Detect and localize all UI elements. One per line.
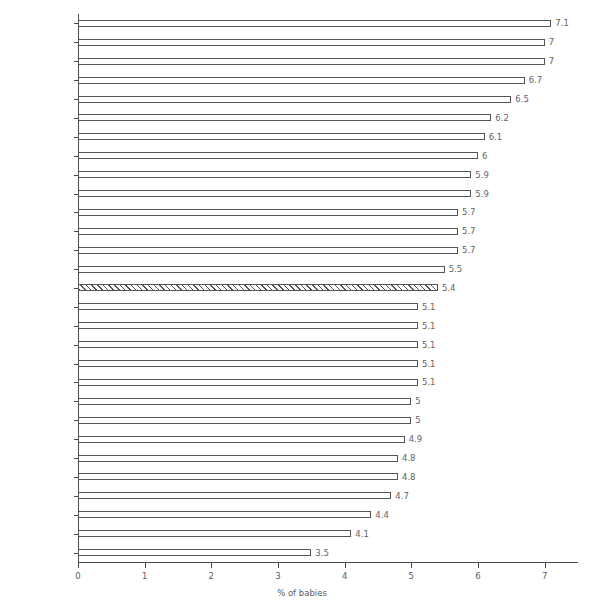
bar-value-label: 3.5 (311, 546, 329, 560)
x-axis-tick-label: 7 (542, 570, 547, 582)
x-axis-tick-label: 3 (275, 570, 280, 582)
bar (78, 530, 351, 537)
bar (78, 417, 411, 424)
bar-value-label: 5.9 (471, 168, 489, 182)
bar (78, 266, 445, 273)
bar-value-label: 4.8 (398, 470, 416, 484)
x-axis-line (78, 562, 578, 563)
bar (78, 322, 418, 329)
x-axis-tick-label: 0 (75, 570, 80, 582)
x-axis-tick-label: 4 (342, 570, 347, 582)
bar-row: Meath5.7 (78, 222, 578, 241)
bar-value-label: 6.7 (525, 73, 543, 87)
bar-row: Westmeath5.1 (78, 373, 578, 392)
bar-row: Kildare4.4 (78, 505, 578, 524)
bar (78, 511, 371, 518)
x-axis-tick (545, 563, 546, 568)
bar (78, 341, 418, 348)
bar (78, 39, 545, 46)
bar (78, 247, 458, 254)
bar (78, 96, 511, 103)
bar (78, 455, 398, 462)
x-axis-tick (145, 563, 146, 568)
bar-value-label: 7 (545, 54, 554, 68)
bar-value-label: 4.7 (391, 489, 409, 503)
bar (78, 20, 551, 27)
bar (78, 360, 418, 367)
bar-row: Offaly6.5 (78, 90, 578, 109)
bar-value-label: 5.1 (418, 300, 436, 314)
bar-row: Donegal5.1 (78, 316, 578, 335)
bar-value-label: 5.7 (458, 205, 476, 219)
bar-value-label: 5.1 (418, 375, 436, 389)
bar-row: Dublin5.7 (78, 241, 578, 260)
bar-row: Tipperary SR6 (78, 146, 578, 165)
bar-value-label: 5 (411, 394, 420, 408)
bar-value-label: 5.7 (458, 224, 476, 238)
bar-value-label: 6.1 (485, 130, 503, 144)
bar-value-label: 5.9 (471, 187, 489, 201)
bar-value-label: 5.7 (458, 243, 476, 257)
bar-row: Wexford5.1 (78, 297, 578, 316)
bar-row: Kilkenny6.7 (78, 71, 578, 90)
bar (78, 492, 391, 499)
bar (78, 473, 398, 480)
bar (78, 58, 545, 65)
x-axis-title: % of babies (0, 588, 604, 598)
x-axis-tick-label: 5 (409, 570, 414, 582)
bar (78, 171, 471, 178)
bar-row: Longford7 (78, 52, 578, 71)
bar-row: Dublin County4.8 (78, 468, 578, 487)
x-axis-tick-label: 2 (209, 570, 214, 582)
bar-row: Mayo5 (78, 392, 578, 411)
bar (78, 228, 458, 235)
bar-row: Waterford7 (78, 33, 578, 52)
bar (78, 549, 311, 556)
bar-value-label: 5.1 (418, 319, 436, 333)
bar-value-label: 5.5 (445, 262, 463, 276)
plot-area: Roscommon7.1Waterford7Longford7Kilkenny6… (78, 14, 578, 562)
x-axis-tick (278, 563, 279, 568)
x-axis-tick (211, 563, 212, 568)
bar-row: Monaghan5.5 (78, 260, 578, 279)
bar-value-label: 5.1 (418, 338, 436, 352)
bar-row: Sligo5 (78, 411, 578, 430)
x-axis-tick (78, 563, 79, 568)
bar-row: Clare5.1 (78, 354, 578, 373)
bar (78, 152, 478, 159)
bar-row: Cavan5.7 (78, 203, 578, 222)
bar-value-label: 4.1 (351, 527, 369, 541)
bar-row: Carlow4.9 (78, 430, 578, 449)
bar (78, 77, 525, 84)
bar (78, 398, 411, 405)
bar-row: Limerick6.1 (78, 127, 578, 146)
horizontal-bar-chart: Roscommon7.1Waterford7Longford7Kilkenny6… (0, 0, 604, 609)
bar (78, 190, 471, 197)
bar (78, 303, 418, 310)
bar-value-label: 5.4 (438, 281, 456, 295)
bar-value-label: 4.8 (398, 451, 416, 465)
bar-value-label: 5 (411, 413, 420, 427)
bar-value-label: 4.9 (405, 432, 423, 446)
bar-value-label: 7 (545, 35, 554, 49)
bar-value-label: 5.1 (418, 357, 436, 371)
bar-row: Roscommon7.1 (78, 14, 578, 33)
bar (78, 133, 485, 140)
x-axis-tick-label: 1 (142, 570, 147, 582)
bar (78, 114, 491, 121)
bar-row: Louth5.1 (78, 335, 578, 354)
bar-row: State5.4 (78, 279, 578, 298)
x-axis-tick (345, 563, 346, 568)
bar-value-label: 6.2 (491, 111, 509, 125)
bar-row: Laois5.9 (78, 184, 578, 203)
bar-value-label: 6.5 (511, 92, 529, 106)
bar-row: Wicklow6.2 (78, 108, 578, 127)
bar-row: Galway4.7 (78, 486, 578, 505)
bar (78, 436, 405, 443)
bar-row: Cork4.8 (78, 449, 578, 468)
x-axis-tick-label: 6 (475, 570, 480, 582)
bar-row: Leitrim3.5 (78, 543, 578, 562)
bar-value-label: 7.1 (551, 16, 569, 30)
x-axis-tick (411, 563, 412, 568)
bar-value-label: 4.4 (371, 508, 389, 522)
